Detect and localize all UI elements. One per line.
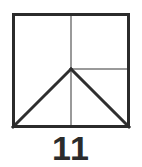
figure-panel: 11 <box>0 0 142 167</box>
figure-number-label: 11 <box>0 131 142 165</box>
